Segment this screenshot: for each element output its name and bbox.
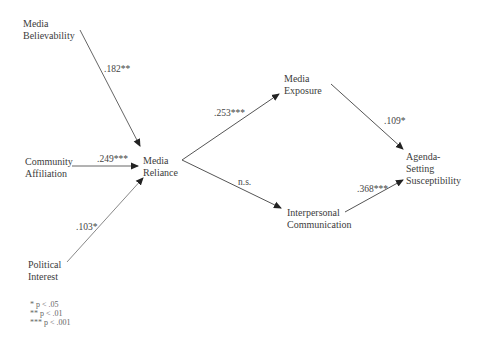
node-political-interest: Political Interest xyxy=(28,259,61,283)
coef-affiliation-reliance: .249*** xyxy=(97,154,128,165)
path-diagram: Media Believability Community Affiliatio… xyxy=(0,0,478,337)
node-label: Exposure xyxy=(284,85,322,97)
node-label: Media xyxy=(143,155,178,167)
node-label: Setting xyxy=(406,163,461,175)
node-label: Reliance xyxy=(143,167,178,179)
coef-believability-reliance: .182** xyxy=(104,64,130,75)
legend-item: *** p < .001 xyxy=(30,318,71,327)
node-label: Community xyxy=(25,156,73,168)
legend-item: * p < .05 xyxy=(30,300,71,309)
coef-interest-reliance: .103* xyxy=(76,222,97,233)
node-label: Political xyxy=(28,259,61,271)
node-label: Media xyxy=(284,73,322,85)
node-media-believability: Media Believability xyxy=(23,18,75,42)
legend-item: ** p < .01 xyxy=(30,309,71,318)
node-media-reliance: Media Reliance xyxy=(143,155,178,179)
arrow-reliance-to-interpersonal xyxy=(182,160,281,208)
significance-legend: * p < .05 ** p < .01 *** p < .001 xyxy=(30,300,71,327)
node-label: Communication xyxy=(287,219,351,231)
coef-exposure-agenda: .109* xyxy=(384,116,405,127)
arrow-believability-to-reliance xyxy=(80,30,140,146)
arrow-reliance-to-exposure xyxy=(182,94,279,160)
node-label: Interpersonal xyxy=(287,207,351,219)
node-agenda-setting-susceptibility: Agenda- Setting Susceptibility xyxy=(406,151,461,187)
coef-interpersonal-agenda: .368*** xyxy=(357,184,388,195)
arrow-interest-to-reliance xyxy=(67,178,143,262)
node-label: Media xyxy=(23,18,75,30)
node-community-affiliation: Community Affiliation xyxy=(25,156,73,180)
coef-reliance-exposure: .253*** xyxy=(214,108,245,119)
node-interpersonal-communication: Interpersonal Communication xyxy=(287,207,351,231)
node-label: Affiliation xyxy=(25,168,73,180)
node-label: Susceptibility xyxy=(406,175,461,187)
node-label: Believability xyxy=(23,30,75,42)
coef-reliance-interpersonal: n.s. xyxy=(238,177,251,188)
node-label: Agenda- xyxy=(406,151,461,163)
node-label: Interest xyxy=(28,271,61,283)
node-media-exposure: Media Exposure xyxy=(284,73,322,97)
